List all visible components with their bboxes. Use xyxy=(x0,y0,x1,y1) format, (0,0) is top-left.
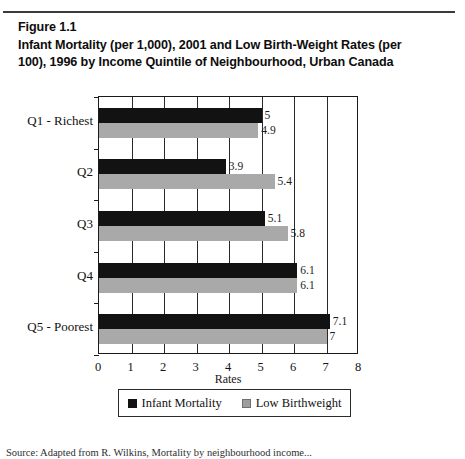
bar-value-label: 4.9 xyxy=(261,123,275,138)
bar-infant-mortality xyxy=(99,211,265,226)
bar-low-birthweight xyxy=(99,278,297,293)
legend-label-low-birthweight: Low Birthweight xyxy=(256,396,342,411)
category-label: Q5 - Poorest xyxy=(0,319,93,335)
category-label: Q2 xyxy=(0,164,93,180)
bar-infant-mortality xyxy=(99,314,330,329)
bar-value-label: 6.1 xyxy=(300,278,314,293)
bar-infant-mortality xyxy=(99,263,297,278)
bar-value-label: 5.1 xyxy=(268,211,282,226)
bar-rows: 54.93.95.45.15.86.16.17.17 xyxy=(99,97,357,353)
legend-item-low-birthweight: Low Birthweight xyxy=(242,396,342,411)
bar-value-label: 7 xyxy=(330,329,336,344)
bar-value-label: 5.8 xyxy=(291,226,305,241)
legend-item-infant-mortality: Infant Mortality xyxy=(128,396,222,411)
legend-swatch-icon-low-birthweight xyxy=(242,399,251,408)
bar-infant-mortality xyxy=(99,108,262,123)
chart-legend: Infant Mortality Low Birthweight xyxy=(118,389,351,417)
bar-low-birthweight xyxy=(99,329,327,344)
category-label: Q4 xyxy=(0,268,93,284)
bar-value-label: 7.1 xyxy=(333,314,347,329)
category-label: Q3 xyxy=(0,216,93,232)
bar-low-birthweight xyxy=(99,226,288,241)
bar-value-label: 5 xyxy=(265,108,271,123)
bar-infant-mortality xyxy=(99,159,226,174)
x-axis-title: Rates xyxy=(98,372,358,387)
bar-value-label: 6.1 xyxy=(300,263,314,278)
bar-value-label: 3.9 xyxy=(229,159,243,174)
figure-title-block: Figure 1.1 Infant Mortality (per 1,000),… xyxy=(18,19,430,72)
figure-title-line-1: Infant Mortality (per 1,000), 2001 and L… xyxy=(18,37,430,55)
bar-low-birthweight xyxy=(99,174,275,189)
top-divider-rule xyxy=(3,11,455,13)
bar-low-birthweight xyxy=(99,123,258,138)
legend-swatch-icon-infant-mortality xyxy=(128,399,137,408)
category-label: Q1 - Richest xyxy=(0,113,93,129)
x-axis-tick-labels: 012345678 xyxy=(98,354,358,374)
figure-number: Figure 1.1 xyxy=(18,19,430,37)
bar-value-label: 5.4 xyxy=(278,174,292,189)
bar-chart: 54.93.95.45.15.86.16.17.17 012345678 Rat… xyxy=(0,88,465,378)
source-note: Source: Adapted from R. Wilkins, Mortali… xyxy=(6,447,461,459)
legend-label-infant-mortality: Infant Mortality xyxy=(142,396,222,411)
plot-area: 54.93.95.45.15.86.16.17.17 xyxy=(98,96,358,354)
figure-title-line-2: 100), 1996 by Income Quintile of Neighbo… xyxy=(18,54,430,72)
